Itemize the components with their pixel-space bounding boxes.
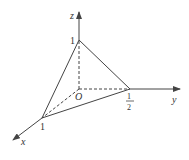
fraction-denominator: 2 [127, 103, 131, 112]
edge-z-x [42, 40, 79, 118]
z-axis-label: z [69, 10, 74, 21]
y-axis-label: y [171, 94, 177, 105]
x-axis-label: x [20, 136, 26, 147]
y-intercept-fraction: 1 2 [126, 92, 134, 112]
dashed-edge-ox [42, 89, 79, 118]
edge-x-y [42, 89, 130, 118]
x-intercept-label: 1 [40, 121, 45, 132]
diagram-canvas: z y x O 1 1 1 2 [0, 0, 189, 160]
x-axis [13, 118, 42, 140]
tetrahedron-diagram: z y x O 1 1 1 2 [0, 0, 189, 160]
origin-label: O [75, 91, 82, 102]
z-intercept-label: 1 [70, 35, 75, 46]
fraction-numerator: 1 [127, 92, 131, 101]
edge-z-y [79, 40, 130, 89]
